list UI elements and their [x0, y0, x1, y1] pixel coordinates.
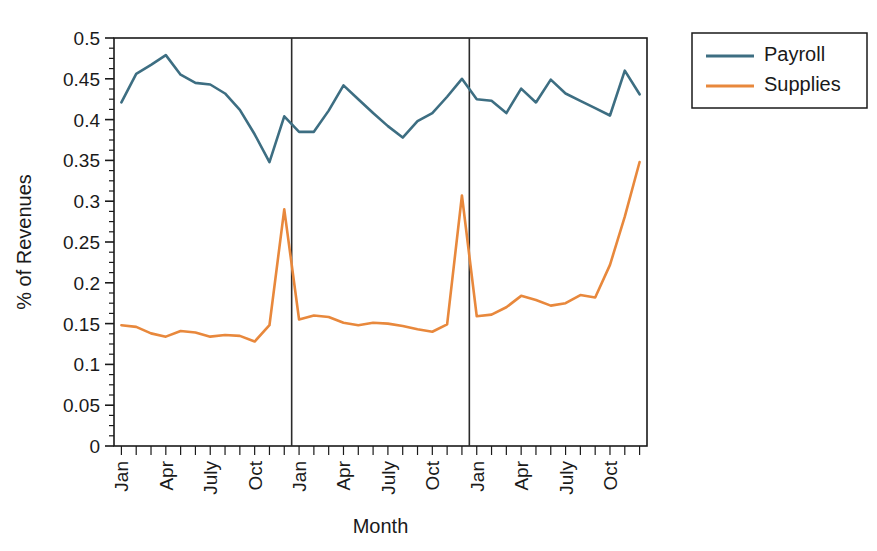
legend-label-payroll: Payroll	[764, 43, 825, 65]
y-tick-label: 0.25	[63, 232, 100, 253]
x-tick-label: July	[200, 461, 221, 495]
x-tick-label: July	[378, 461, 399, 495]
y-tick-label: 0.3	[74, 191, 100, 212]
x-tick-label: Jan	[467, 461, 488, 492]
y-tick-label: 0.1	[74, 354, 100, 375]
x-tick-label: Apr	[333, 460, 354, 490]
y-tick-label: 0.2	[74, 273, 100, 294]
x-tick-label: Apr	[156, 460, 177, 490]
y-axis-label: % of Revenues	[13, 174, 35, 310]
x-tick-label: Jan	[289, 461, 310, 492]
x-tick-label: Oct	[600, 460, 621, 490]
y-tick-label: 0.15	[63, 314, 100, 335]
y-tick-label: 0.5	[74, 28, 100, 49]
y-tick-label: 0	[89, 436, 100, 457]
y-tick-label: 0.05	[63, 395, 100, 416]
x-axis-label: Month	[353, 515, 409, 537]
chart-figure: 00.050.10.150.20.250.30.350.40.450.5JanA…	[0, 0, 877, 551]
plot-area	[114, 38, 647, 446]
y-tick-label: 0.4	[74, 110, 101, 131]
legend-label-supplies: Supplies	[764, 73, 841, 95]
x-tick-label: Oct	[422, 460, 443, 490]
y-tick-label: 0.35	[63, 150, 100, 171]
chart-legend: PayrollSupplies	[692, 33, 867, 108]
x-tick-label: Apr	[511, 460, 532, 490]
plot-frame	[114, 38, 647, 446]
x-tick-label: Jan	[111, 461, 132, 492]
x-tick-label: July	[556, 461, 577, 495]
y-tick-label: 0.45	[63, 69, 100, 90]
line-chart-svg: 00.050.10.150.20.250.30.350.40.450.5JanA…	[0, 0, 877, 551]
x-tick-label: Oct	[245, 460, 266, 490]
